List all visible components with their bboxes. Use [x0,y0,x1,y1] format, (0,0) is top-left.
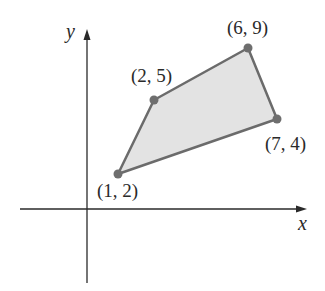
diagram-canvas: y x (1, 2) (2, 5) (6, 9) (7, 4) [0,0,325,291]
vertex-point-7-4 [273,115,282,124]
vertex-label-6-9: (6, 9) [227,17,268,39]
vertex-label-7-4: (7, 4) [265,133,306,155]
y-axis-label: y [64,20,75,43]
x-axis-label: x [297,212,307,234]
y-axis-arrow-icon [84,29,91,40]
vertex-point-2-5 [150,96,159,105]
vertex-label-2-5: (2, 5) [131,65,172,87]
vertex-label-1-2: (1, 2) [97,180,138,202]
vertex-point-6-9 [244,44,253,53]
x-axis [20,206,307,213]
y-axis [84,29,91,283]
vertex-point-1-2 [114,170,123,179]
